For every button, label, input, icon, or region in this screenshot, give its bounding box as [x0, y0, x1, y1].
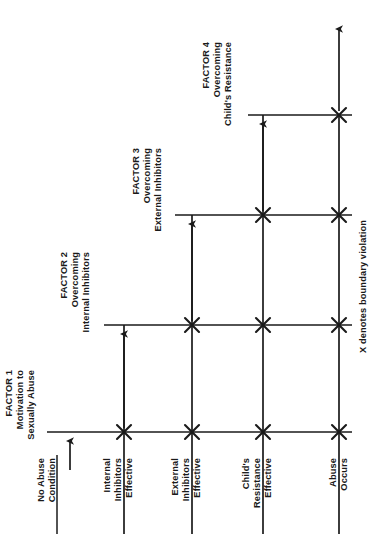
factor-4-label-line2: Overcoming — [212, 42, 222, 97]
diagram-vectors — [0, 0, 381, 534]
factor-4-label-line3: Child's Resistance — [223, 42, 233, 126]
factor-4-label: FACTOR 4 — [201, 42, 211, 89]
outcome-no-abuse-line1: No Abuse — [36, 458, 46, 502]
outcome-resistance-line1: Child's — [241, 458, 251, 489]
legend-caption: X denotes boundary violation — [358, 220, 368, 353]
outcome-abuse-line1: Abuse — [328, 458, 338, 487]
outcome-internal-line3: Effective — [124, 458, 134, 498]
outcome-abuse-line2: Occurs — [339, 458, 349, 491]
factor-1-label-line2: Motivation to — [15, 370, 25, 429]
factor-1-label-line3: Sexually Abuse — [26, 370, 36, 440]
outcome-resistance-line2: Resistance — [252, 458, 262, 508]
outcome-resistance-line3: Effective — [263, 458, 273, 498]
outcome-internal-line1: Internal — [102, 458, 112, 492]
factor-3-label: FACTOR 3 — [131, 148, 141, 195]
factor-3-label-line2: Overcoming — [142, 148, 152, 203]
outcome-no-abuse-line2: Condition — [47, 458, 57, 502]
factor-1-label: FACTOR 1 — [4, 370, 14, 417]
diagram-canvas: FACTOR 1 Motivation to Sexually Abuse FA… — [0, 0, 381, 534]
factor-3-label-line3: External Inhibitors — [153, 148, 163, 232]
factor-2-label: FACTOR 2 — [59, 252, 69, 299]
outcome-internal-line2: Inhibitors — [113, 458, 123, 501]
outcome-external-line2: Inhibitors — [181, 458, 191, 501]
factor-2-label-line3: Internal Inhibitors — [81, 252, 91, 332]
factor-2-label-line2: Overcoming — [70, 252, 80, 307]
outcome-external-line1: External — [170, 458, 180, 496]
outcome-external-line3: Effective — [192, 458, 202, 498]
